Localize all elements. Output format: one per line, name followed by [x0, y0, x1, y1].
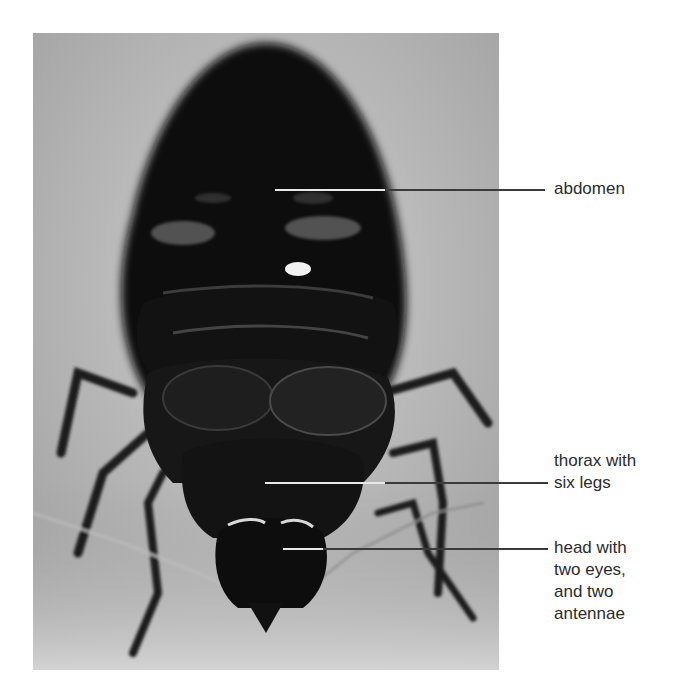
thorax-label: thorax with six legs — [554, 450, 636, 494]
head-leader-line — [283, 548, 548, 550]
abdomen-label: abdomen — [554, 178, 625, 200]
abdomen-leader-line — [275, 189, 545, 191]
bed-bug-photo — [33, 33, 499, 670]
bed-bug-illustration — [33, 33, 499, 670]
head-label: head with two eyes, and two antennae — [554, 537, 627, 625]
thorax-leader-line — [265, 482, 548, 484]
